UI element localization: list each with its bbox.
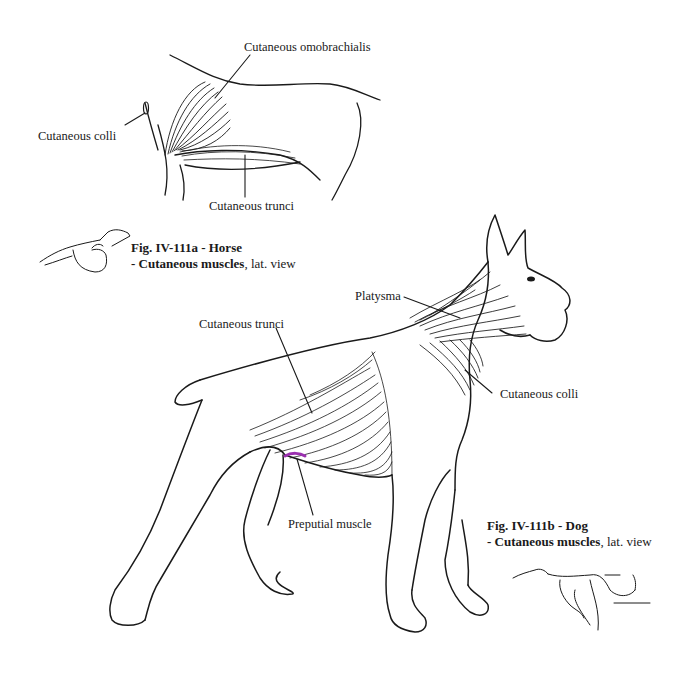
dog-orientation-thumbnail [513,569,650,630]
horse-orientation-thumbnail [40,230,130,272]
horse-torso-drawing [144,55,381,200]
caption-horse-fig: Fig. IV-111a - Horse [131,240,242,255]
dog-leader-lines [276,297,492,515]
anatomy-illustration [0,0,695,675]
caption-dog-fig: Fig. IV-111b - Dog [487,518,588,533]
dog-colli-muscle [420,340,483,395]
preputial-highlight [285,453,305,456]
horse-omobrachialis-muscle [165,82,230,155]
dog-body-drawing [110,215,570,632]
label-cutaneous-omobrachialis: Cutaneous omobrachialis [244,41,371,54]
dog-platysma-muscle [410,272,526,342]
caption-dog-view: , lat. view [600,534,651,549]
horse-trunci-muscle [180,146,300,164]
label-cutaneous-trunci-horse: Cutaneous trunci [209,200,294,213]
label-preputial-muscle: Preputial muscle [288,518,372,531]
dog-trunci-muscle [250,352,392,475]
label-cutaneous-colli-horse: Cutaneous colli [38,130,116,143]
label-platysma: Platysma [355,290,401,303]
caption-horse-view: , lat. view [244,256,295,271]
caption-horse-subtitle: - Cutaneous muscles [131,256,244,271]
label-cutaneous-trunci-dog: Cutaneous trunci [199,318,284,331]
label-cutaneous-colli-dog: Cutaneous colli [500,388,578,401]
caption-horse: Fig. IV-111a - Horse - Cutaneous muscles… [131,240,296,272]
caption-dog: Fig. IV-111b - Dog - Cutaneous muscles, … [487,518,652,550]
caption-dog-subtitle: - Cutaneous muscles [487,534,600,549]
